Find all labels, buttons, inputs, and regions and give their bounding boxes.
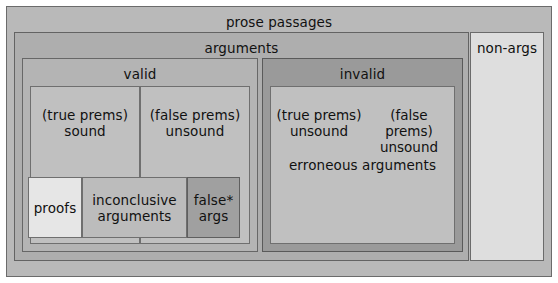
valid-label: valid bbox=[23, 66, 257, 82]
erroneous-arguments-label: erroneous arguments bbox=[271, 157, 454, 173]
true-prems-sound-label: (true prems) sound bbox=[31, 107, 139, 139]
erroneous-arguments-box: (true prems) unsound (false prems) unsou… bbox=[270, 86, 455, 244]
inconclusive-arguments-box: inconclusive arguments bbox=[82, 177, 187, 238]
invalid-label: invalid bbox=[263, 66, 462, 82]
false-args-label: false* args bbox=[188, 192, 239, 224]
false-prems-unsound-label: (false prems) unsound bbox=[141, 107, 249, 139]
non-args-label: non-args bbox=[471, 40, 543, 56]
prose-passages-label: prose passages bbox=[7, 14, 551, 30]
arguments-label: arguments bbox=[15, 40, 468, 56]
false-args-box: false* args bbox=[187, 177, 240, 238]
non-args-box: non-args bbox=[470, 32, 544, 261]
proofs-label: proofs bbox=[29, 200, 81, 216]
proofs-box: proofs bbox=[28, 177, 82, 238]
erroneous-false-prems-unsound-label: (false prems) unsound bbox=[365, 107, 453, 155]
inconclusive-arguments-label: inconclusive arguments bbox=[83, 192, 186, 224]
diagram-canvas: prose passages arguments non-args valid … bbox=[0, 0, 558, 283]
erroneous-true-prems-unsound-label: (true prems) unsound bbox=[275, 107, 363, 139]
